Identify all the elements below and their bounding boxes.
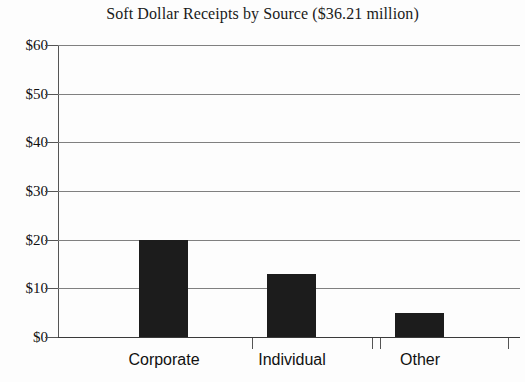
y-axis-tick: [45, 288, 58, 289]
y-axis-tick-label: $20: [4, 231, 48, 248]
gridline: [58, 94, 520, 95]
y-axis-tick-label: $40: [4, 134, 48, 151]
bar-chart: Soft Dollar Receipts by Source ($36.21 m…: [0, 0, 525, 382]
y-axis-tick: [45, 191, 58, 192]
x-axis-label-corporate: Corporate: [128, 351, 199, 369]
y-axis-tick-label: $60: [4, 37, 48, 54]
x-axis-tick: [372, 338, 373, 349]
x-axis-tick: [252, 338, 253, 349]
bar-individual: [267, 274, 316, 337]
y-axis-tick: [45, 94, 58, 95]
plot-area: [58, 45, 520, 337]
y-axis-tick: [45, 337, 58, 338]
y-axis-labels: $0$10$20$30$40$50$60: [0, 0, 48, 382]
x-axis-baseline: [58, 337, 520, 338]
x-axis-label-other: Other: [400, 351, 440, 369]
gridline: [58, 45, 520, 46]
x-axis-tick: [508, 338, 509, 349]
chart-title: Soft Dollar Receipts by Source ($36.21 m…: [0, 5, 525, 23]
y-axis-tick-label: $50: [4, 85, 48, 102]
x-axis-label-individual: Individual: [258, 351, 326, 369]
x-axis-tick: [380, 338, 381, 349]
y-axis-tick-label: $30: [4, 183, 48, 200]
bar-other: [395, 313, 444, 337]
y-axis-tick: [45, 240, 58, 241]
y-axis-tick: [45, 142, 58, 143]
gridline: [58, 191, 520, 192]
y-axis-tick-label: $10: [4, 280, 48, 297]
bar-corporate: [139, 240, 188, 337]
y-axis-tick: [45, 45, 58, 46]
gridline: [58, 240, 520, 241]
y-axis-tick-label: $0: [4, 329, 48, 346]
gridline: [58, 142, 520, 143]
